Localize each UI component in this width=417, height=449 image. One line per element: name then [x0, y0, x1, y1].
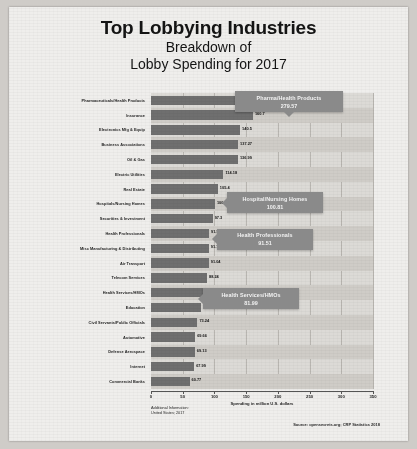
- bar-row: Commercial Banks60.77: [29, 374, 393, 389]
- bar: [151, 258, 209, 267]
- axis-tick-label: 100: [211, 394, 218, 399]
- footnote: Additional Information: United States; 2…: [151, 406, 189, 416]
- category-label: Telecom Services: [29, 271, 147, 286]
- bar-row: Air Transport91.04: [29, 256, 393, 271]
- bar: [151, 377, 190, 386]
- category-label: Oil & Gas: [29, 152, 147, 167]
- chart-callout: Health Professionals91.51: [217, 229, 313, 250]
- bar-value-label: 60.77: [192, 377, 202, 382]
- bar-value-label: 91.04: [211, 259, 221, 264]
- subtitle-line-1: Breakdown of: [9, 39, 408, 56]
- category-label: Pharmaceuticals/Health Products: [29, 93, 147, 108]
- chart-callout: Health Services/HMOs81.99: [203, 288, 299, 309]
- callout-pointer: [212, 234, 217, 244]
- category-label: Electric Utilities: [29, 167, 147, 182]
- axis-tick-label: 150: [243, 394, 250, 399]
- bar-row: Health Professionals91.51: [29, 226, 393, 241]
- bar: [151, 199, 215, 208]
- category-label: Business Associations: [29, 137, 147, 152]
- chart-callout: Pharma/Health Products279.57: [235, 91, 343, 112]
- bar-value-label: 67.99: [196, 363, 206, 368]
- axis-tick-label: 0: [150, 394, 152, 399]
- axis-tick-label: 350: [370, 394, 377, 399]
- bar-row: Hospitals/Nursing Homes100.81: [29, 197, 393, 212]
- category-label: Real Estate: [29, 182, 147, 197]
- callout-value: 91.51: [217, 239, 313, 247]
- bar-row: Automotive69.66: [29, 330, 393, 345]
- callout-value: 279.57: [235, 102, 343, 110]
- category-label: Misc Manufacturing & Distributing: [29, 241, 147, 256]
- bar: [151, 273, 207, 282]
- category-label: Insurance: [29, 108, 147, 123]
- callout-value: 100.81: [227, 203, 323, 211]
- bar-row: Electronics Mfg & Equip140.5: [29, 123, 393, 138]
- bar: [151, 318, 197, 327]
- bar-row: Oil & Gas136.99: [29, 152, 393, 167]
- axis-tick-label: 50: [180, 394, 185, 399]
- chart-callout: Hospital/Nursing Homes100.81: [227, 192, 323, 213]
- category-label: Securities & Investment: [29, 211, 147, 226]
- callout-title: Health Professionals: [217, 231, 313, 239]
- additional-info-value: United States; 2017: [151, 411, 189, 416]
- bar-rows: Pharmaceuticals/Health Products279.57Ins…: [29, 93, 393, 389]
- category-label: Commercial Banks: [29, 374, 147, 389]
- bar: [151, 347, 195, 356]
- bar-row: Real Estate105.4: [29, 182, 393, 197]
- bar-value-label: 88.24: [209, 274, 219, 279]
- category-label: Hospitals/Nursing Homes: [29, 197, 147, 212]
- bar: [151, 288, 203, 297]
- bar: [151, 214, 213, 223]
- bar: [151, 155, 238, 164]
- bar-row: Misc Manufacturing & Distributing91.18: [29, 241, 393, 256]
- category-label: Health Professionals: [29, 226, 147, 241]
- bar: [151, 229, 209, 238]
- category-label: Automotive: [29, 330, 147, 345]
- bar-row: Securities & Investment97.3: [29, 211, 393, 226]
- bar-value-label: 140.5: [242, 126, 252, 131]
- category-label: Air Transport: [29, 256, 147, 271]
- callout-pointer: [284, 112, 294, 117]
- callout-value: 81.99: [203, 299, 299, 307]
- bar-value-label: 69.66: [197, 333, 207, 338]
- axis-line: [151, 391, 373, 392]
- category-label: Defense Aerospace: [29, 345, 147, 360]
- bar: [151, 184, 218, 193]
- category-label: Health Services/HMOs: [29, 285, 147, 300]
- axis-tick-label: 200: [274, 394, 281, 399]
- screenshot-root: Top Lobbying Industries Breakdown of Lob…: [0, 0, 417, 449]
- page-title: Top Lobbying Industries: [9, 17, 408, 39]
- bar-value-label: 114.18: [225, 170, 237, 175]
- callout-title: Hospital/Nursing Homes: [227, 195, 323, 203]
- bar: [151, 140, 238, 149]
- bar-value-label: 73.24: [199, 318, 209, 323]
- axis-tick-label: 300: [338, 394, 345, 399]
- x-axis: 050100150200250300350 Spending in millio…: [29, 391, 393, 405]
- bar: [151, 244, 209, 253]
- bar: [151, 332, 195, 341]
- callout-title: Health Services/HMOs: [203, 291, 299, 299]
- chart-plot-area: Pharmaceuticals/Health Products279.57Ins…: [29, 93, 393, 395]
- category-label: Internet: [29, 359, 147, 374]
- bar-row: Business Associations137.27: [29, 137, 393, 152]
- callout-pointer: [222, 198, 227, 208]
- category-label: Civil Servants/Public Officials: [29, 315, 147, 330]
- bar: [151, 125, 240, 134]
- bar-row: Defense Aerospace69.13: [29, 345, 393, 360]
- bar-row: Telecom Services88.24: [29, 271, 393, 286]
- category-label: Education: [29, 300, 147, 315]
- source-note: Source: opensecrets.org; CRP Statistics …: [293, 422, 380, 427]
- bar-value-label: 69.13: [197, 348, 207, 353]
- bar-value-label: 105.4: [220, 185, 230, 190]
- bar: [151, 303, 201, 312]
- bar-row: Internet67.99: [29, 359, 393, 374]
- bar-value-label: 97.3: [215, 215, 223, 220]
- callout-title: Pharma/Health Products: [235, 94, 343, 102]
- bar-value-label: 136.99: [240, 155, 252, 160]
- bar-row: Electric Utilities114.18: [29, 167, 393, 182]
- bar-value-label: 137.27: [240, 141, 252, 146]
- bar: [151, 362, 194, 371]
- axis-tick-label: 250: [306, 394, 313, 399]
- poster-sheet: Top Lobbying Industries Breakdown of Lob…: [9, 7, 408, 441]
- category-label: Electronics Mfg & Equip: [29, 123, 147, 138]
- subtitle-line-2: Lobby Spending for 2017: [9, 56, 408, 73]
